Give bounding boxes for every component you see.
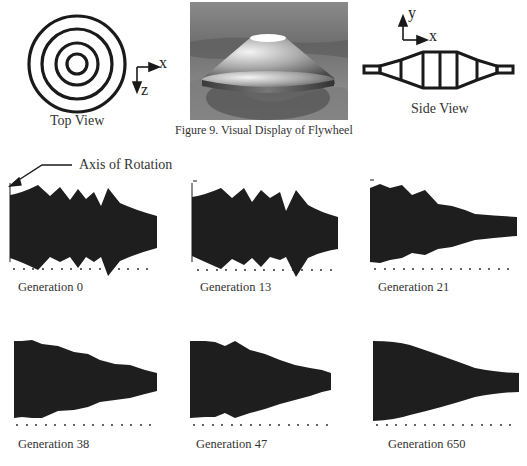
generation-38-label: Generation 38	[18, 437, 89, 452]
dot-row-gen0	[13, 268, 148, 270]
generation-47-label: Generation 47	[196, 437, 267, 452]
flywheel-render-image	[190, 2, 348, 120]
top-view-label: Top View	[50, 113, 104, 129]
side-axis-y-label: y	[408, 4, 416, 22]
top-axis-x-label: x	[159, 54, 167, 72]
side-view-diagram	[364, 52, 513, 88]
profile-generation-650	[373, 341, 519, 421]
generation-650-label: Generation 650	[388, 437, 465, 452]
dot-row-gen21	[374, 268, 509, 270]
profile-generation-21	[370, 184, 517, 263]
profile-generation-47	[190, 341, 331, 418]
generation-21-label: Generation 21	[378, 280, 449, 295]
dot-row-gen13	[197, 269, 332, 271]
profile-generation-0	[10, 185, 157, 276]
top-axis-z-label: z	[141, 81, 148, 99]
profile-generation-13	[192, 188, 338, 277]
dot-row-gen38	[16, 424, 151, 426]
figure-caption: Figure 9. Visual Display of Flywheel	[175, 123, 353, 138]
dot-row-gen47	[193, 424, 328, 426]
dot-row-gen650	[376, 424, 511, 426]
profile-generation-38	[14, 340, 157, 418]
side-axis-x-label: x	[429, 27, 437, 45]
generation-0-label: Generation 0	[18, 280, 83, 295]
generation-13-label: Generation 13	[200, 280, 271, 295]
side-view-label: Side View	[411, 101, 469, 117]
top-view-diagram	[0, 0, 527, 466]
axis-of-rotation-label: Axis of Rotation	[79, 157, 172, 173]
axis-of-rotation-arrow-icon	[10, 165, 72, 186]
